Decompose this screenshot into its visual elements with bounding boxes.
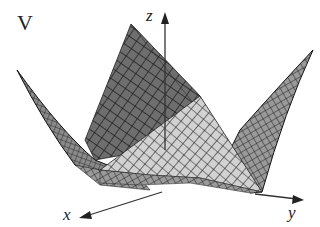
x-axis <box>86 192 162 216</box>
figure-title: V <box>17 10 33 36</box>
y-axis-label: y <box>288 203 296 223</box>
surface-plot-svg <box>0 0 320 227</box>
z-axis-label: z <box>146 6 153 26</box>
x-axis-arrowhead <box>79 211 92 219</box>
surface-plot-figure <box>0 0 320 227</box>
y-axis <box>255 194 297 199</box>
z-axis-arrowhead <box>161 12 169 24</box>
x-axis-label: x <box>63 205 71 225</box>
